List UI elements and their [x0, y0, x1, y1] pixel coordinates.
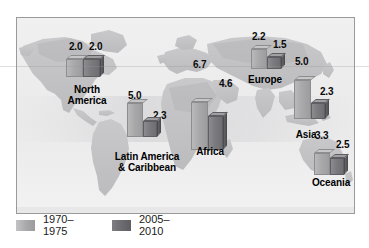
value-label-asia-2005: 2.3 — [320, 87, 333, 97]
region-label-latin-america: Latin America & Caribbean — [103, 151, 191, 173]
bar-front-face — [311, 103, 325, 119]
bar-asia-2005 — [311, 103, 325, 119]
value-label-oceania-2005: 2.5 — [336, 140, 349, 150]
bar-front-face — [127, 103, 143, 137]
bar-north-america-2005 — [83, 59, 100, 77]
region-label-line1: Oceania — [312, 177, 350, 188]
bar-front-face — [267, 57, 281, 69]
legend-label-2005-2010: 2005–2010 — [139, 213, 178, 237]
value-label-north-america-1970: 2.0 — [69, 42, 82, 52]
legend-label-1970-1975: 1970–1975 — [43, 213, 82, 237]
region-label-north-america: North America — [59, 84, 115, 106]
region-label-africa: Africa — [189, 146, 231, 157]
dark-gray-swatch-icon — [112, 220, 131, 231]
region-label-line1: Europe — [248, 74, 282, 85]
bar-latin-america-1970 — [127, 103, 143, 137]
region-label-line1: Africa — [196, 146, 224, 157]
value-label-africa-1970: 6.7 — [193, 60, 206, 70]
bar-latin-america-2005 — [143, 121, 157, 137]
bar-asia-1970 — [294, 80, 311, 119]
region-label-line1: Latin America — [115, 151, 179, 162]
bar-front-face — [208, 116, 223, 150]
bar-front-face — [143, 121, 157, 137]
value-label-oceania-1970: 3.3 — [315, 131, 328, 141]
bar-front-face — [330, 158, 344, 175]
region-label-oceania: Oceania — [306, 177, 355, 188]
bar-africa-2005 — [208, 116, 223, 150]
bar-group-oceania: 3.3 2.5 Oceania — [305, 131, 355, 197]
image-scan-artifact — [0, 66, 369, 67]
chart-figure: 2.0 2.0 North America 5.0 2.3 — [0, 0, 369, 248]
value-label-africa-2005: 4.6 — [219, 79, 232, 89]
light-gray-swatch-icon — [16, 220, 35, 231]
world-map-panel: 2.0 2.0 North America 5.0 2.3 — [16, 17, 355, 214]
region-label-europe: Europe — [241, 74, 289, 85]
legend-item-2005-2010: 2005–2010 — [112, 218, 178, 232]
bar-europe-2005 — [267, 57, 281, 69]
bar-north-america-1970 — [66, 59, 83, 77]
legend-item-1970-1975: 1970–1975 — [16, 218, 82, 232]
bar-oceania-1970 — [314, 153, 330, 175]
bar-africa-1970 — [191, 102, 208, 150]
value-label-europe-1970: 2.2 — [252, 32, 265, 42]
value-label-north-america-2005: 2.0 — [89, 42, 102, 52]
bar-front-face — [294, 80, 311, 119]
bar-front-face — [314, 153, 330, 175]
bar-front-face — [66, 59, 83, 77]
bar-front-face — [191, 102, 208, 150]
region-label-line1: North — [74, 84, 100, 95]
region-label-line2: America — [68, 95, 107, 106]
bar-oceania-2005 — [330, 158, 344, 175]
bar-front-face — [83, 59, 100, 77]
region-label-line2: & Caribbean — [118, 162, 176, 173]
value-label-europe-2005: 1.5 — [273, 40, 286, 50]
bar-side-face — [223, 112, 227, 150]
